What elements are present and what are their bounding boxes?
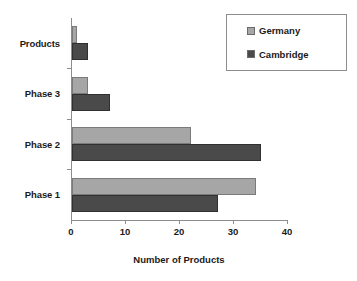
legend: Germany Cambridge bbox=[226, 14, 347, 71]
x-axis-tick-label: 40 bbox=[272, 226, 302, 237]
category-label-phase-2: Phase 2 bbox=[0, 119, 66, 170]
x-axis-tick bbox=[287, 220, 288, 224]
bar-phase-2-germany bbox=[72, 127, 191, 144]
bar-products-cambridge bbox=[72, 43, 88, 60]
bar-group-phase-1 bbox=[72, 170, 288, 221]
bar-chart: Products Phase 3 Phase 2 Phase 1 0 10 bbox=[0, 0, 357, 281]
legend-item-cambridge: Cambridge bbox=[247, 49, 346, 60]
bar-phase-3-cambridge bbox=[72, 94, 110, 111]
bar-phase-1-cambridge bbox=[72, 195, 218, 212]
x-axis-tick bbox=[233, 220, 234, 224]
legend-item-germany: Germany bbox=[247, 25, 346, 36]
x-axis-tick bbox=[179, 220, 180, 224]
x-axis-tick bbox=[71, 220, 72, 224]
bar-products-germany bbox=[72, 26, 77, 43]
legend-label-germany: Germany bbox=[259, 25, 300, 36]
bar-group-phase-2 bbox=[72, 119, 288, 170]
x-axis-tick-label: 0 bbox=[56, 226, 86, 237]
x-axis-tick-label: 20 bbox=[164, 226, 194, 237]
bar-group-phase-3 bbox=[72, 69, 288, 120]
category-label-phase-3: Phase 3 bbox=[0, 69, 66, 120]
x-axis-tick bbox=[125, 220, 126, 224]
legend-label-cambridge: Cambridge bbox=[259, 49, 309, 60]
x-axis-title: Number of Products bbox=[71, 254, 287, 265]
category-label-phase-1: Phase 1 bbox=[0, 170, 66, 221]
bar-phase-3-germany bbox=[72, 77, 88, 94]
legend-swatch-icon bbox=[247, 50, 255, 58]
category-label-products: Products bbox=[0, 18, 66, 69]
bar-phase-2-cambridge bbox=[72, 144, 261, 161]
x-axis-tick-label: 10 bbox=[110, 226, 140, 237]
category-axis: Products Phase 3 Phase 2 Phase 1 bbox=[0, 18, 66, 220]
x-axis-tick-label: 30 bbox=[218, 226, 248, 237]
bar-phase-1-germany bbox=[72, 178, 256, 195]
legend-swatch-icon bbox=[247, 27, 255, 35]
